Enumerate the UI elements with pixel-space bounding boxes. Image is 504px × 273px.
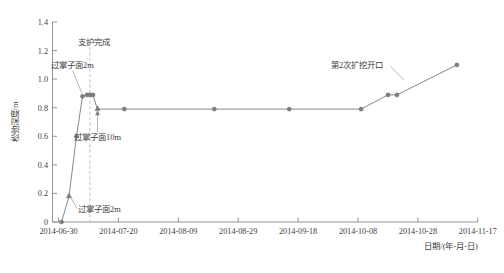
x-tick-label: 2014-08-09 [159, 227, 197, 236]
x-tick-label: 2014-08-29 [219, 227, 257, 236]
x-tick-label: 2014-10-08 [339, 227, 377, 236]
annotation-leader-line [71, 198, 77, 209]
data-point-marker [386, 93, 390, 97]
y-tick-label: 0.4 [38, 161, 48, 170]
data-point-marker [212, 107, 216, 111]
data-point-marker [59, 220, 63, 224]
y-axis-tick-labels: 1.4 1.2 1.0 0.8 0.6 0.4 0.2 0 [38, 18, 48, 227]
annotation-past-face-10m: 过掌子面10m [74, 132, 121, 142]
y-tick-label: 0 [44, 218, 48, 227]
annotation-past-face-2m-upper: 过掌子面2m [51, 60, 94, 70]
data-point-marker [287, 107, 291, 111]
series-data-point-markers [59, 63, 459, 224]
relaxation-depth-line-chart: 1.4 1.2 1.0 0.8 0.6 0.4 0.2 0 松弛深度/m 201… [0, 0, 504, 273]
data-point-marker [95, 106, 100, 111]
data-point-marker [80, 94, 84, 98]
y-tick-label: 0.6 [38, 132, 48, 141]
data-point-marker [122, 107, 126, 111]
annotation-support-complete: 支护完成 [78, 37, 111, 47]
x-axis-title: 日期/(年-月-日) [424, 241, 478, 251]
y-tick-label: 1.0 [38, 75, 48, 84]
y-tick-label: 1.2 [38, 47, 48, 56]
x-tick-label: 2014-11-17 [459, 227, 497, 236]
series-line-relaxation-depth [62, 65, 457, 222]
annotation-second-expansion-opening: 第2次扩挖开口 [331, 60, 383, 70]
y-tick-label: 0.2 [38, 189, 48, 198]
y-tick-label: 0.8 [38, 104, 48, 113]
x-axis-ticks [59, 218, 478, 223]
x-axis-tick-labels: 2014-06-30 2014-07-20 2014-08-09 2014-08… [39, 227, 496, 236]
x-tick-label: 2014-06-30 [39, 227, 77, 236]
x-tick-label: 2014-10-28 [399, 227, 437, 236]
y-tick-label: 1.4 [38, 18, 48, 27]
annotation-leader-line [391, 67, 405, 81]
annotation-arrow-head-icon [96, 111, 100, 116]
data-point-marker [395, 93, 399, 97]
data-point-marker [455, 63, 459, 67]
chart-canvas: 1.4 1.2 1.0 0.8 0.6 0.4 0.2 0 松弛深度/m 201… [0, 0, 504, 273]
data-point-marker [359, 107, 363, 111]
annotation-leader-line [73, 71, 83, 94]
y-axis-title: 松弛深度/m [10, 101, 20, 142]
data-point-marker [91, 93, 95, 97]
x-tick-label: 2014-09-18 [279, 227, 317, 236]
annotation-past-face-2m-lower: 过掌子面2m [78, 204, 121, 214]
y-axis-ticks [53, 22, 58, 222]
x-tick-label: 2014-07-20 [99, 227, 137, 236]
data-point-marker [66, 193, 71, 198]
